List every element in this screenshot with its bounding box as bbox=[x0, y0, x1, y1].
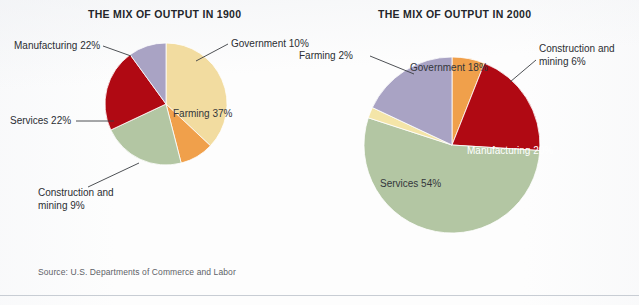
leader-line-manufacturing-1900 bbox=[103, 46, 131, 56]
leader-line-farming-2000 bbox=[370, 56, 414, 74]
pie-label-government-2000: Government 18% bbox=[410, 62, 488, 75]
pie-label-construction-2000-line1: Construction and bbox=[539, 43, 615, 54]
pie-label-farming-1900: Farming 37% bbox=[173, 108, 232, 121]
source-note: Source: U.S. Departments of Commerce and… bbox=[38, 267, 236, 277]
pie-label-services-2000: Services 54% bbox=[380, 178, 441, 191]
pie-label-construction-1900-line2: mining 9% bbox=[38, 200, 85, 211]
bottom-divider bbox=[0, 295, 639, 296]
pie-label-construction-1900-line1: Construction and bbox=[38, 187, 114, 198]
pie-label-manufacturing-2000: Manufacturing 20% bbox=[467, 145, 553, 158]
leader-line-construction-1900 bbox=[88, 163, 139, 187]
pie-label-services-1900: Services 22% bbox=[10, 115, 71, 128]
pie-label-construction-2000: Construction and mining 6% bbox=[539, 43, 615, 68]
pie-label-government-1900: Government 10% bbox=[231, 38, 309, 51]
leader-line-construction-2000 bbox=[510, 60, 536, 82]
pie-label-farming-2000: Farming 2% bbox=[299, 50, 353, 63]
pie-label-construction-2000-line2: mining 6% bbox=[539, 56, 586, 67]
pie-label-construction-1900: Construction and mining 9% bbox=[38, 187, 114, 212]
pie-label-manufacturing-1900: Manufacturing 22% bbox=[14, 40, 100, 53]
pie-1900 bbox=[105, 43, 227, 165]
leader-line-government-1900 bbox=[196, 44, 228, 61]
